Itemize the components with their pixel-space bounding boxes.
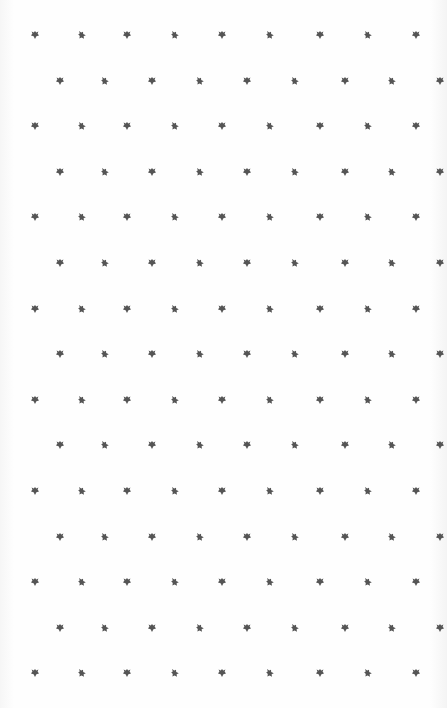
clover-icon [55, 349, 65, 359]
tilted-clover-icon [170, 395, 180, 405]
clover-icon [315, 304, 325, 314]
clover-icon [30, 577, 40, 587]
tilted-clover-icon [363, 30, 373, 40]
tilted-clover-icon [265, 304, 275, 314]
tilted-clover-icon [100, 349, 110, 359]
clover-icon [147, 76, 157, 86]
tilted-clover-icon [265, 121, 275, 131]
tilted-clover-icon [290, 532, 300, 542]
tilted-clover-icon [290, 623, 300, 633]
tilted-clover-icon [387, 258, 397, 268]
tilted-clover-icon [100, 440, 110, 450]
clover-icon [340, 76, 350, 86]
clover-icon [30, 668, 40, 678]
tilted-clover-icon [265, 395, 275, 405]
clover-icon [435, 76, 445, 86]
clover-icon [411, 668, 421, 678]
clover-icon [242, 167, 252, 177]
tilted-clover-icon [363, 212, 373, 222]
clover-icon [315, 577, 325, 587]
clover-icon [122, 30, 132, 40]
clover-icon [435, 349, 445, 359]
tilted-clover-icon [387, 532, 397, 542]
tilted-clover-icon [100, 532, 110, 542]
clover-icon [411, 121, 421, 131]
clover-icon [340, 623, 350, 633]
clover-icon [435, 167, 445, 177]
tilted-clover-icon [170, 30, 180, 40]
clover-icon [242, 76, 252, 86]
clover-icon [435, 258, 445, 268]
clover-icon [122, 121, 132, 131]
clover-icon [217, 121, 227, 131]
tilted-clover-icon [100, 258, 110, 268]
tilted-clover-icon [170, 121, 180, 131]
tilted-clover-icon [363, 395, 373, 405]
clover-icon [411, 577, 421, 587]
tilted-clover-icon [290, 76, 300, 86]
tilted-clover-icon [195, 623, 205, 633]
tilted-clover-icon [363, 486, 373, 496]
clover-icon [30, 395, 40, 405]
tilted-clover-icon [265, 30, 275, 40]
clover-icon [55, 623, 65, 633]
tilted-clover-icon [195, 532, 205, 542]
tilted-clover-icon [387, 76, 397, 86]
clover-icon [315, 212, 325, 222]
clover-icon [411, 304, 421, 314]
tilted-clover-icon [195, 167, 205, 177]
clover-icon [217, 577, 227, 587]
clover-icon [315, 121, 325, 131]
clover-icon [340, 532, 350, 542]
tilted-clover-icon [387, 440, 397, 450]
tilted-clover-icon [77, 30, 87, 40]
patterned-background [0, 0, 447, 708]
clover-icon [340, 258, 350, 268]
tilted-clover-icon [77, 577, 87, 587]
tilted-clover-icon [265, 212, 275, 222]
clover-icon [217, 395, 227, 405]
tilted-clover-icon [77, 486, 87, 496]
tilted-clover-icon [170, 668, 180, 678]
clover-icon [55, 167, 65, 177]
clover-icon [411, 30, 421, 40]
clover-icon [242, 532, 252, 542]
clover-icon [435, 623, 445, 633]
clover-icon [340, 349, 350, 359]
tilted-clover-icon [290, 258, 300, 268]
tilted-clover-icon [195, 258, 205, 268]
clover-icon [411, 212, 421, 222]
clover-icon [315, 395, 325, 405]
clover-icon [217, 668, 227, 678]
clover-icon [55, 76, 65, 86]
clover-icon [55, 532, 65, 542]
clover-icon [30, 121, 40, 131]
tilted-clover-icon [77, 304, 87, 314]
clover-icon [242, 623, 252, 633]
tilted-clover-icon [77, 395, 87, 405]
clover-icon [122, 395, 132, 405]
tilted-clover-icon [195, 76, 205, 86]
tilted-clover-icon [100, 76, 110, 86]
clover-icon [315, 486, 325, 496]
tilted-clover-icon [100, 167, 110, 177]
tilted-clover-icon [100, 623, 110, 633]
clover-icon [147, 532, 157, 542]
tilted-clover-icon [363, 668, 373, 678]
clover-icon [242, 349, 252, 359]
clover-icon [147, 349, 157, 359]
clover-icon [147, 258, 157, 268]
clover-icon [435, 532, 445, 542]
clover-icon [122, 668, 132, 678]
clover-icon [30, 212, 40, 222]
clover-icon [30, 486, 40, 496]
tilted-clover-icon [387, 623, 397, 633]
clover-icon [122, 304, 132, 314]
clover-icon [217, 212, 227, 222]
clover-icon [55, 440, 65, 450]
tilted-clover-icon [387, 349, 397, 359]
clover-icon [122, 577, 132, 587]
tilted-clover-icon [170, 577, 180, 587]
tilted-clover-icon [170, 304, 180, 314]
clover-icon [217, 486, 227, 496]
